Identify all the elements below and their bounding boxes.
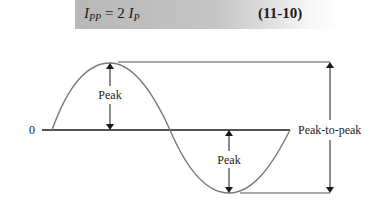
sine-waveform <box>52 63 290 193</box>
lower-peak-label: Peak <box>217 153 240 167</box>
upper-peak-label: Peak <box>98 88 121 102</box>
peak-to-peak-label: Peak-to-peak <box>298 123 361 137</box>
sine-wave-diagram: 0 Peak Peak Peak-to-peak <box>0 0 386 215</box>
zero-label: 0 <box>29 123 35 137</box>
